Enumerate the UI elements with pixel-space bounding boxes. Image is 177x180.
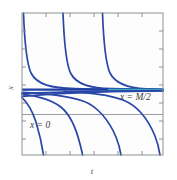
asymptote-annotation: x = M/2 <box>119 92 151 102</box>
chart-figure: x = M/2 x = 0 x t <box>0 0 177 180</box>
plot-canvas: x = M/2 x = 0 x t <box>0 0 177 180</box>
y-axis-label: x <box>5 86 15 91</box>
zero-annotation: x = 0 <box>29 120 50 130</box>
